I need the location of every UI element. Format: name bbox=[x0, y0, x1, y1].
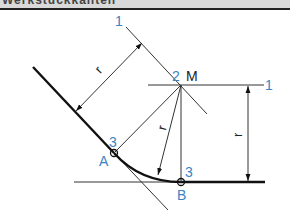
point-a-label: A bbox=[99, 153, 109, 169]
step-1-label-right: 1 bbox=[265, 77, 273, 93]
radius-label-parallel: r bbox=[91, 62, 105, 76]
center-m-label: M bbox=[186, 68, 198, 84]
tangent-arc-construction-diagram: 1 1 2 M 3 3 A B r r r bbox=[0, 0, 290, 217]
radius-label-arc: r bbox=[154, 123, 170, 132]
dimension-r-parallel bbox=[76, 43, 142, 111]
fillet-arc bbox=[114, 153, 181, 182]
point-b-label: B bbox=[177, 187, 186, 203]
radius-line-to-a bbox=[114, 85, 181, 153]
edge-line-left bbox=[33, 67, 114, 153]
step-1-label-top: 1 bbox=[115, 13, 123, 29]
radius-label-vertical: r bbox=[230, 132, 245, 137]
step-2-label: 2 bbox=[172, 68, 180, 84]
step-3-label-b: 3 bbox=[185, 164, 193, 180]
step-3-label-a: 3 bbox=[109, 134, 117, 150]
